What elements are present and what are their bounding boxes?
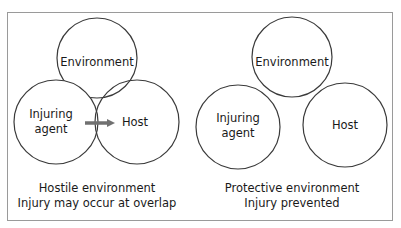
epidemiology-diagram: Environment Injuring agent Host Hostile … xyxy=(0,0,401,228)
environment-label: Environment xyxy=(255,55,329,69)
panel-hostile: Environment Injuring agent Host Hostile … xyxy=(14,18,179,210)
caption-line1: Protective environment xyxy=(225,181,360,195)
host-label: Host xyxy=(122,115,149,129)
caption-line2: Injury prevented xyxy=(244,196,339,210)
environment-label: Environment xyxy=(60,55,134,69)
agent-label-line1: Injuring xyxy=(29,107,73,121)
caption-line1: Hostile environment xyxy=(39,181,156,195)
agent-label-line1: Injuring xyxy=(216,111,260,125)
host-label: Host xyxy=(332,118,359,132)
caption-line2: Injury may occur at overlap xyxy=(18,196,177,210)
agent-label-line2: agent xyxy=(34,122,68,136)
panel-protective: Environment Injuring agent Host Protecti… xyxy=(196,17,387,210)
agent-label-line2: agent xyxy=(221,126,255,140)
